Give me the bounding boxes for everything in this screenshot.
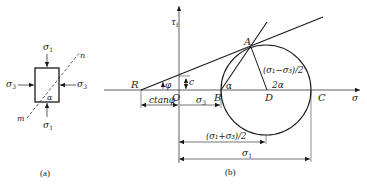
angle-alpha-label: α	[47, 93, 53, 102]
tau-axis-label: τf	[171, 17, 179, 28]
cohesion-c-label: c	[189, 77, 194, 87]
figure-b: τf σ R O B A D C φ α 2α c ctanφ σ3 (σ₁−σ…	[104, 6, 360, 177]
point-R-label: R	[130, 79, 139, 90]
point-D-label: D	[264, 92, 273, 103]
point-C-label: C	[318, 92, 326, 103]
sigma-axis-label: σ	[352, 93, 359, 103]
figure-a: σ1 σ1 σ3 σ3 n m α (a)	[6, 42, 87, 178]
angle-phi-label: φ	[165, 80, 172, 90]
plane-m-label: m	[17, 114, 25, 123]
sigma3-left-label: σ3	[6, 79, 16, 90]
radius-label: (σ₁−σ₃)/2	[263, 65, 303, 75]
sigma1-bottom-label: σ1	[43, 120, 53, 131]
mohr-coulomb-figure: σ1 σ1 σ3 σ3 n m α (a)	[0, 0, 367, 190]
point-B-label: B	[213, 92, 221, 103]
center-label: (σ₁+σ₃)/2	[206, 131, 246, 141]
angle-alpha-label: α	[226, 81, 232, 91]
ctan-phi-label: ctanφ	[149, 95, 176, 105]
sigma1-top-label: σ1	[43, 42, 53, 53]
sigma1-dim-label: σ1	[242, 148, 252, 159]
sigma3-right-label: σ3	[77, 79, 87, 90]
sigma3-dim-label: σ3	[196, 95, 206, 106]
caption-b: (b)	[225, 167, 236, 177]
failure-plane-line	[221, 22, 267, 90]
point-A-label: A	[243, 36, 251, 47]
plane-n-label: n	[80, 51, 85, 60]
angle-2alpha-label: 2α	[271, 80, 284, 90]
caption-a: (a)	[40, 168, 50, 178]
